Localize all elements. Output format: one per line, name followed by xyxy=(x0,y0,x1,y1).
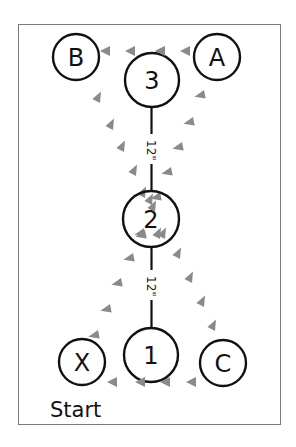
node-3: 3 xyxy=(125,53,179,107)
distance-label-lower: 12" xyxy=(144,276,158,297)
node-x: X xyxy=(59,339,105,385)
start-label: Start xyxy=(50,398,101,422)
node-b-label: B xyxy=(68,44,84,72)
node-a-label: A xyxy=(209,44,226,72)
node-c: C xyxy=(200,340,246,386)
distance-label-upper: 12" xyxy=(144,140,158,161)
node-b: B xyxy=(53,34,99,80)
node-1: 1 xyxy=(124,328,178,382)
drill-diagram: 12" 12" xyxy=(0,0,296,447)
node-x-label: X xyxy=(74,349,90,377)
node-c-label: C xyxy=(215,350,232,378)
arrows-x-to-2 xyxy=(88,226,148,342)
node-2-label: 2 xyxy=(143,206,158,234)
node-a: A xyxy=(194,34,240,80)
node-1-label: 1 xyxy=(143,342,158,370)
node-3-label: 3 xyxy=(144,67,159,95)
